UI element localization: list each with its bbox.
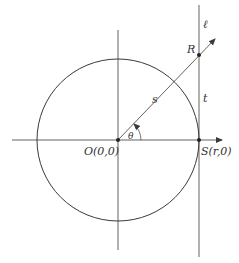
label-segment-t: t bbox=[203, 92, 208, 105]
label-origin: O(0,0) bbox=[84, 145, 119, 158]
point-R bbox=[197, 53, 201, 57]
label-point-R: R bbox=[186, 43, 195, 56]
label-segment-s: s bbox=[152, 93, 158, 106]
angle-arc-theta bbox=[134, 124, 141, 140]
geometry-diagram: ℓ R s t θ O(0,0) S(r,0) bbox=[0, 0, 239, 263]
label-angle-theta: θ bbox=[128, 131, 134, 141]
point-S bbox=[197, 138, 201, 142]
label-line-l: ℓ bbox=[203, 18, 208, 31]
point-O bbox=[116, 138, 120, 142]
label-point-S: S(r,0) bbox=[201, 145, 232, 158]
